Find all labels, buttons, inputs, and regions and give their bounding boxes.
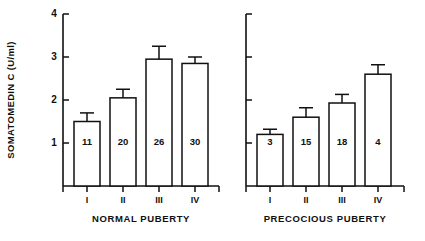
- y-axis-tick-label: 1: [51, 137, 57, 148]
- category-label: I: [86, 195, 89, 205]
- category-label: IV: [191, 195, 200, 205]
- category-label: II: [120, 195, 125, 205]
- x-axis-ticks-right: [246, 186, 404, 192]
- bar: [365, 74, 391, 186]
- bar-n-label: 26: [154, 136, 165, 147]
- bar-n-label: 20: [118, 136, 129, 147]
- bar-group-right: [257, 74, 391, 186]
- panel-caption-normal-puberty: NORMAL PUBERTY: [92, 213, 190, 224]
- category-label-group-right: IIIIIIIV: [269, 195, 383, 205]
- category-label: III: [338, 195, 346, 205]
- bar: [146, 59, 172, 186]
- bar-n-label: 30: [190, 136, 201, 147]
- bar-n-label: 3: [267, 136, 272, 147]
- category-label: II: [303, 195, 308, 205]
- y-axis-ticks-right: [246, 14, 252, 143]
- category-label-group-left: IIIIIIIV: [86, 195, 200, 205]
- somatomedin-c-bar-chart-figure: SOMATOMEDIN C (U/ml) 1234 11202630 IIIII…: [0, 0, 425, 241]
- chart-canvas: SOMATOMEDIN C (U/ml) 1234 11202630 IIIII…: [0, 0, 425, 241]
- panel-caption-precocious-puberty: PRECOCIOUS PUBERTY: [264, 213, 387, 224]
- y-axis-tick-labels-left: 1234: [51, 8, 57, 148]
- y-axis-tick-label: 2: [51, 94, 57, 105]
- y-axis-label: SOMATOMEDIN C (U/ml): [5, 41, 16, 158]
- y-axis-ticks-left: [63, 14, 69, 143]
- bar-n-label: 15: [301, 136, 312, 147]
- panel-normal-puberty: 1234 11202630 IIIIIIIV NORMAL PUBERTY: [51, 8, 219, 224]
- bar-n-label: 4: [375, 136, 381, 147]
- bar: [182, 63, 208, 186]
- category-label: III: [155, 195, 163, 205]
- y-axis-tick-label: 4: [51, 8, 57, 19]
- panel-precocious-puberty: 315184 IIIIIIIV PRECOCIOUS PUBERTY: [246, 14, 404, 224]
- bar: [293, 117, 319, 186]
- bar: [74, 122, 100, 187]
- bar-group-left: [74, 59, 208, 186]
- bar-n-label: 11: [82, 136, 93, 147]
- category-label: IV: [374, 195, 383, 205]
- y-axis-tick-label: 3: [51, 51, 57, 62]
- category-label: I: [269, 195, 272, 205]
- x-axis-ticks-left: [63, 186, 219, 192]
- bar-n-label: 18: [337, 136, 348, 147]
